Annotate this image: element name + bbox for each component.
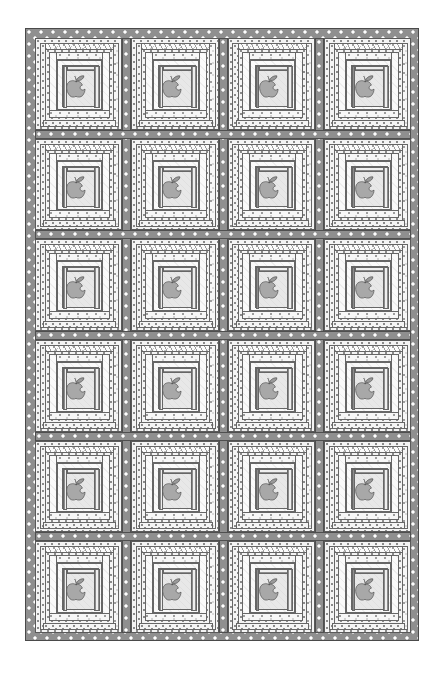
mid-ring-bottom-log [338,210,399,218]
outer-ring-top-log [332,446,405,453]
apple-icon [354,174,376,202]
horizontal-sashing-2 [35,230,411,239]
apple-center-panel [255,468,292,510]
mid-ring-right-log [391,52,399,118]
quilt-block-R4C1[interactable] [35,340,122,432]
mid-ring-left-log [145,354,153,420]
outer-ring-top-log [43,446,116,453]
quilt-block-R1C1[interactable] [35,38,122,130]
apple-body [259,584,277,600]
apple-icon [65,274,87,302]
quilt-block-R4C2[interactable] [131,340,218,432]
apple-motif-R6C3 [258,576,280,604]
quilt-block-R3C1[interactable] [35,239,122,331]
mid-ring-left-log [242,555,250,621]
outer-ring-right-log [402,546,408,630]
outer-ring-top-log [139,244,212,251]
mid-ring-bottom-log [49,512,110,520]
mid-ring-bottom-log [145,412,206,420]
quilt-block-R3C2[interactable] [131,239,218,331]
outer-ring-right-log [306,345,312,429]
apple-motif-R1C1 [65,73,87,101]
quilt-block-R2C1[interactable] [35,139,122,231]
quilt-block-R5C4[interactable] [324,441,411,533]
quilt-block-R6C1[interactable] [35,541,122,633]
apple-motif-R3C2 [161,274,183,302]
outer-ring-right-log [402,446,408,530]
apple-icon [161,73,183,101]
quilt-block-R1C3[interactable] [228,38,315,130]
apple-leaf [269,176,276,181]
quilt-block-R6C3[interactable] [228,541,315,633]
inner-frame [57,261,102,311]
apple-center-panel [158,568,195,610]
outer-ring-right-log [402,345,408,429]
apple-icon [161,274,183,302]
quilt-block-R2C2[interactable] [131,139,218,231]
quilt-block-R6C4[interactable] [324,541,411,633]
outer-ring-left-log [329,345,335,429]
apple-icon [354,375,376,403]
inner-stripe-right [191,167,197,209]
inner-stripe-right [94,368,100,410]
apple-icon [65,576,87,604]
quilt-block-R2C4[interactable] [324,139,411,231]
apple-motif-R2C3 [258,174,280,202]
mid-ring-right-log [199,455,207,521]
quilt-block-R5C1[interactable] [35,441,122,533]
quilt-block-R6C2[interactable] [131,541,218,633]
mid-ring-bottom-log [242,110,303,118]
mid-ring-left-log [242,52,250,118]
apple-motif-R6C4 [354,576,376,604]
outer-ring-left-log [136,244,142,328]
inner-stripe-right [287,66,293,108]
apple-center-panel [62,65,99,107]
mid-ring-right-log [102,555,110,621]
apple-center-panel [351,568,388,610]
quilt-block-R4C3[interactable] [228,340,315,432]
quilt-block-R5C2[interactable] [131,441,218,533]
inner-frame [346,463,391,513]
outer-ring-top-log [43,43,116,50]
outer-ring-top-log [236,144,309,151]
outer-ring-left-log [136,43,142,127]
inner-stripe-right [383,368,389,410]
horizontal-sashing-3 [35,331,411,340]
outer-ring-right-log [113,546,119,630]
outer-ring-bottom-log [332,623,405,630]
outer-ring-left-log [136,546,142,630]
inner-stripe-right [94,469,100,511]
outer-ring-left-log [40,144,46,228]
quilt-block-R1C4[interactable] [324,38,411,130]
mid-ring-top-log [338,52,399,60]
outer-ring-left-log [136,144,142,228]
apple-body [67,584,85,600]
mid-ring-bottom-log [49,210,110,218]
mid-ring-top-log [49,455,110,463]
quilt-block-R3C3[interactable] [228,239,315,331]
quilt-canvas [0,0,446,674]
mid-ring-bottom-log [242,512,303,520]
apple-motif-R4C4 [354,375,376,403]
outer-ring-right-log [113,446,119,530]
apple-motif-R1C4 [354,73,376,101]
apple-icon [258,576,280,604]
outer-ring-left-log [40,546,46,630]
apple-center-panel [62,266,99,308]
outer-ring-right-log [113,144,119,228]
mid-ring-right-log [199,253,207,319]
quilt-block-R4C4[interactable] [324,340,411,432]
apple-body [163,282,181,298]
quilt-block-R1C2[interactable] [131,38,218,130]
outer-ring-top-log [332,144,405,151]
mid-ring-top-log [338,153,399,161]
outer-ring-right-log [402,43,408,127]
apple-leaf [173,277,180,282]
mid-ring-left-log [145,52,153,118]
inner-frame [346,362,391,412]
quilt-block-R3C4[interactable] [324,239,411,331]
apple-body [259,282,277,298]
mid-ring-left-log [242,455,250,521]
quilt-block-R5C3[interactable] [228,441,315,533]
quilt-block-R2C3[interactable] [228,139,315,231]
